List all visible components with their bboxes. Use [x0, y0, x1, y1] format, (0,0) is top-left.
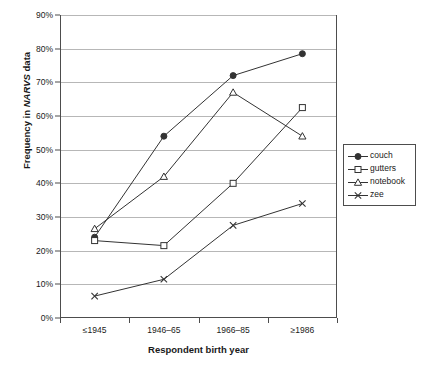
- y-axis-tick-label: 60%: [36, 111, 53, 121]
- data-point-filled-circle: [355, 154, 361, 160]
- gridline: [61, 251, 336, 252]
- gridline: [61, 82, 336, 83]
- y-axis-tick-mark: [55, 116, 60, 117]
- y-axis-title-suffix: data: [21, 52, 32, 74]
- x-axis-tick-mark: [268, 318, 269, 323]
- x-axis-tick-label: ≤1945: [83, 325, 107, 335]
- x-axis-tick-label: ≥1986: [291, 325, 315, 335]
- y-axis-tick-mark: [55, 183, 60, 184]
- gridline: [61, 116, 336, 117]
- y-axis-title-prefix: Frequency in: [21, 107, 32, 169]
- y-axis-tick-label: 50%: [36, 145, 53, 155]
- x-axis-tick-label: 1946–65: [147, 325, 180, 335]
- gridline: [61, 284, 336, 285]
- legend-item-couch[interactable]: couch: [347, 149, 411, 162]
- legend-item-gutters[interactable]: gutters: [347, 162, 411, 175]
- x-axis-title: Respondent birth year: [60, 344, 337, 355]
- y-axis-tick-mark: [55, 217, 60, 218]
- y-axis-tick-label: 40%: [36, 178, 53, 188]
- legend-item-notebook[interactable]: notebook: [347, 175, 411, 188]
- legend-label: gutters: [369, 162, 396, 175]
- legend-label: notebook: [369, 175, 405, 188]
- y-axis-tick-mark: [55, 250, 60, 251]
- legend-marker-open-triangle-icon: [347, 175, 369, 188]
- gridline: [61, 49, 336, 50]
- y-axis-tick-label: 30%: [36, 212, 53, 222]
- y-axis-tick-label: 70%: [36, 77, 53, 87]
- y-axis-tick-label: 80%: [36, 44, 53, 54]
- legend-item-zee[interactable]: zee: [347, 188, 411, 201]
- gridline: [61, 183, 336, 184]
- chart-legend: couchguttersnotebookzee: [343, 144, 416, 206]
- legend-label: zee: [369, 188, 384, 201]
- x-axis-tick-mark: [60, 318, 61, 323]
- data-point-open-square: [355, 167, 361, 173]
- y-axis-tick-label: 90%: [36, 10, 53, 20]
- legend-marker-open-square-icon: [347, 162, 369, 175]
- plot-area: [60, 15, 337, 318]
- gridline: [61, 150, 336, 151]
- legend-marker-filled-circle-icon: [347, 149, 369, 162]
- y-axis-tick-label: 20%: [36, 246, 53, 256]
- x-axis-tick-mark: [199, 318, 200, 323]
- x-axis-tick-mark: [337, 318, 338, 323]
- y-axis-tick-mark: [55, 48, 60, 49]
- y-axis-tick-mark: [55, 149, 60, 150]
- x-axis-tick-mark: [129, 318, 130, 323]
- y-axis-tick-mark: [55, 284, 60, 285]
- gridline: [61, 15, 336, 16]
- chart-figure: 0%10%20%30%40%50%60%70%80%90% Frequency …: [0, 0, 422, 370]
- y-axis-title-corpus: NARVS: [21, 74, 32, 107]
- gridline: [61, 217, 336, 218]
- legend-marker-cross-x-icon: [347, 188, 369, 201]
- y-axis-tick-mark: [55, 15, 60, 16]
- x-axis-tick-label: 1966–85: [217, 325, 250, 335]
- y-axis-title: Frequency in NARVS data: [21, 11, 32, 211]
- y-axis-tick-mark: [55, 82, 60, 83]
- y-axis-tick-label: 10%: [36, 279, 53, 289]
- y-axis-tick-label: 0%: [41, 313, 53, 323]
- legend-label: couch: [369, 149, 393, 162]
